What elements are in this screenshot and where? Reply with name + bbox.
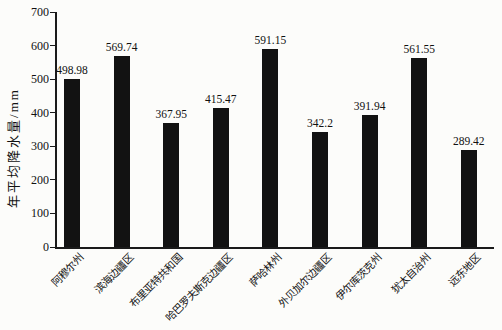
x-category-label: 犹太自治州: [390, 252, 434, 296]
y-tick-mark: [50, 213, 55, 214]
bar: [312, 132, 328, 247]
y-tick-label: 100: [11, 206, 49, 220]
bar: [411, 58, 427, 247]
bar: [461, 150, 477, 247]
bar: [213, 108, 229, 247]
bar: [262, 49, 278, 247]
bar: [163, 123, 179, 247]
x-category-label: 伊尔库茨克州: [333, 252, 384, 303]
y-tick-mark: [50, 79, 55, 80]
x-category-label: 外贝加尔边疆区: [277, 252, 335, 310]
bar-value-label: 591.15: [238, 33, 302, 47]
y-tick-mark: [50, 146, 55, 147]
bar-value-label: 391.94: [338, 99, 402, 113]
x-category-label: 阿穆尔州: [50, 252, 87, 289]
bar-chart-figure: 年平均降水量/mm 0100200300400500600700498.98阿穆…: [0, 0, 502, 330]
y-tick-label: 0: [11, 240, 49, 254]
bar-value-label: 415.47: [189, 92, 253, 106]
bar: [114, 56, 130, 247]
x-category-label: 远东地区: [447, 252, 484, 289]
y-tick-mark: [50, 112, 55, 113]
y-tick-mark: [50, 45, 55, 46]
x-category-label: 滨海边疆区: [92, 252, 136, 296]
y-tick-label: 300: [11, 139, 49, 153]
y-tick-mark: [50, 247, 55, 248]
bar-value-label: 367.95: [139, 107, 203, 121]
y-tick-label: 600: [11, 39, 49, 53]
y-tick-label: 200: [11, 173, 49, 187]
bar-value-label: 342.2: [288, 116, 352, 130]
x-category-label: 萨哈林州: [248, 252, 285, 289]
bar-value-label: 498.98: [40, 63, 104, 77]
bar: [362, 115, 378, 247]
y-tick-mark: [50, 12, 55, 13]
bar-value-label: 561.55: [387, 42, 451, 56]
y-tick-mark: [50, 179, 55, 180]
bar-value-label: 569.74: [90, 40, 154, 54]
bar-value-label: 289.42: [437, 134, 501, 148]
x-axis-line: [55, 247, 494, 249]
y-tick-label: 400: [11, 106, 49, 120]
bar: [64, 79, 80, 247]
y-axis-line: [55, 12, 57, 247]
y-tick-label: 700: [11, 5, 49, 19]
